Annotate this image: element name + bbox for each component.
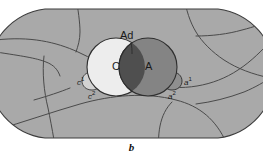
label-c2-sup: 2 — [92, 90, 95, 96]
label-c1-sup: 1 — [81, 76, 84, 82]
figure-caption: b — [0, 141, 263, 153]
cell-diagram-svg — [0, 0, 263, 157]
label-a1-sup: 1 — [188, 76, 191, 82]
label-c1: c1 — [77, 76, 84, 87]
label-ad: Ad — [120, 30, 133, 41]
figure-panel-b: Ad C A c1 c2 a1 a2 b — [0, 0, 263, 157]
label-circle-a: A — [145, 61, 152, 72]
label-c2: c2 — [88, 90, 95, 101]
label-a2-sup: 2 — [172, 90, 175, 96]
label-a1: a1 — [184, 76, 192, 87]
label-a2: a2 — [168, 90, 176, 101]
label-circle-c: C — [112, 61, 120, 72]
